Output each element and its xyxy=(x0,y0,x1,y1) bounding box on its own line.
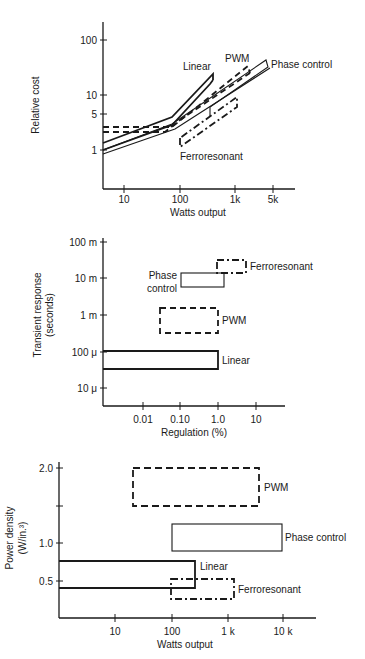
chart2-box-pwm xyxy=(160,308,218,333)
chart2-ylabel-line1: Transient response xyxy=(32,272,43,358)
chart1-xlabel: Watts output xyxy=(170,207,226,218)
chart1-ytick-100: 100 xyxy=(80,35,97,46)
chart2-ytick-100m: 100 m xyxy=(69,237,97,248)
chart3-ytick-0.5: 0.5 xyxy=(39,576,53,587)
chart3-box-pwm xyxy=(133,468,259,506)
chart2-ytick-100u: 100 μ xyxy=(72,347,97,358)
chart-transient-response: Transient response (seconds) 100 m 10 m … xyxy=(32,237,313,438)
chart1-series-pwm xyxy=(103,66,250,132)
chart1-series-linear xyxy=(103,74,213,150)
chart1-series-phase-control xyxy=(103,60,270,154)
chart1-series-ferroresonant xyxy=(180,97,237,147)
chart1-xtick-10: 10 xyxy=(118,194,130,205)
chart2-ylabel-line2: (seconds) xyxy=(44,293,55,337)
chart2-box-phase-control xyxy=(181,273,224,287)
chart3-label-pwm: PWM xyxy=(264,482,288,493)
chart2-label-ferroresonant: Ferroresonant xyxy=(250,261,313,272)
chart3-ylabel-line1: Power density xyxy=(4,507,15,570)
chart-power-density: Power density (W/in.³) 2.0 1.0 0.5 10 10… xyxy=(4,462,346,650)
chart3-label-phase-control: Phase control xyxy=(285,532,346,543)
chart2-ytick-1m: 1 m xyxy=(80,310,97,321)
chart-relative-cost: Relative cost 100 10 5 1 10 100 1k 5k Wa… xyxy=(30,22,332,218)
chart2-label-linear: Linear xyxy=(222,355,250,366)
chart1-ylabel: Relative cost xyxy=(30,76,41,133)
chart2-label-phase-line1: Phase xyxy=(149,270,178,281)
chart1-label-ferroresonant: Ferroresonant xyxy=(180,151,243,162)
chart2-xtick-0.01: 0.01 xyxy=(133,414,153,425)
chart2-xlabel: Regulation (%) xyxy=(161,427,227,438)
chart3-box-phase-control xyxy=(172,524,282,551)
chart1-ytick-5: 5 xyxy=(91,109,97,120)
chart2-xtick-0.10: 0.10 xyxy=(170,414,190,425)
chart3-xtick-10k: 10 k xyxy=(274,626,294,637)
chart1-xtick-1k: 1k xyxy=(230,194,242,205)
chart3-ytick-1.0: 1.0 xyxy=(39,538,53,549)
chart3-ytick-2.0: 2.0 xyxy=(39,463,53,474)
chart2-box-linear xyxy=(103,351,218,369)
chart3-ylabel-line2: (W/in.³) xyxy=(17,522,28,555)
chart1-xtick-100: 100 xyxy=(172,194,189,205)
chart1-label-pwm: PWM xyxy=(225,53,249,64)
chart1-label-phase-control: Phase control xyxy=(271,59,332,70)
chart1-xtick-5k: 5k xyxy=(268,194,280,205)
chart2-label-pwm: PWM xyxy=(222,315,246,326)
chart2-ytick-10m: 10 m xyxy=(75,273,97,284)
chart3-xtick-10: 10 xyxy=(109,626,121,637)
chart3-label-ferroresonant: Ferroresonant xyxy=(238,584,301,595)
chart3-xtick-1k: 1 k xyxy=(221,626,235,637)
chart3-box-linear xyxy=(59,561,195,588)
chart1-ytick-1: 1 xyxy=(91,145,97,156)
chart2-xtick-1.0: 1.0 xyxy=(211,414,225,425)
chart3-label-linear: Linear xyxy=(200,561,228,572)
chart3-xtick-100: 100 xyxy=(164,626,181,637)
chart1-label-linear: Linear xyxy=(183,61,211,72)
chart2-xtick-10: 10 xyxy=(250,414,262,425)
chart3-box-ferroresonant xyxy=(171,579,234,599)
chart1-ytick-10: 10 xyxy=(86,90,98,101)
figure: Relative cost 100 10 5 1 10 100 1k 5k Wa… xyxy=(0,0,365,659)
chart2-label-phase-line2: control xyxy=(147,283,177,294)
chart2-ytick-10u: 10 μ xyxy=(77,383,97,394)
chart3-xlabel: Watts output xyxy=(157,639,213,650)
chart2-box-ferroresonant xyxy=(217,260,246,273)
